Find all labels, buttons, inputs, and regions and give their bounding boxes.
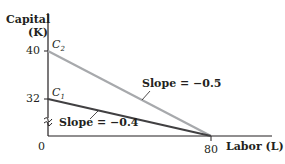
leader-c2 — [142, 91, 150, 100]
c1-label-sub: 1 — [60, 93, 64, 101]
y-axis-unit: (K) — [28, 27, 48, 38]
y-tick-label-40: 40 — [26, 45, 40, 56]
axis-break-icon — [44, 122, 52, 126]
c1-label: C1 — [52, 87, 65, 101]
y-tick-label-32: 32 — [26, 93, 40, 104]
axis-break-icon — [44, 118, 52, 122]
isocost-chart: Capital (K) 40 32 0 80 Labor (L) C2 C1 S… — [0, 0, 285, 164]
slope-label-c2: Slope = −0.5 — [142, 78, 221, 89]
c2-label: C2 — [52, 39, 65, 53]
c2-label-sub: 2 — [60, 45, 64, 53]
x-tick-label-0: 0 — [38, 141, 45, 152]
slope-label-c1: Slope = −0.4 — [59, 117, 138, 128]
y-axis-title: Capital — [6, 14, 50, 25]
x-axis-title: Labor (L) — [226, 141, 284, 152]
x-tick-label-80: 80 — [204, 144, 218, 155]
